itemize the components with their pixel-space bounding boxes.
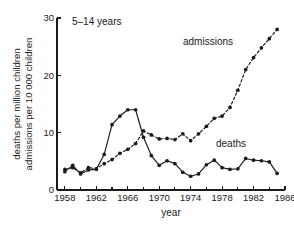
x-tick-label: 1978 — [212, 192, 233, 203]
chart-canvas: 0102030195819621966197019741978198219865… — [0, 0, 294, 227]
data-point-admissions — [220, 114, 224, 118]
y-tick-label: 10 — [43, 127, 54, 138]
y-tick-label: 0 — [49, 184, 54, 195]
data-point-deaths — [228, 168, 232, 172]
series-line-admissions — [65, 29, 277, 172]
x-tick-label: 1966 — [117, 192, 138, 203]
data-point-deaths — [212, 158, 216, 162]
data-point-admissions — [79, 171, 83, 175]
data-point-deaths — [157, 164, 161, 168]
admissions-series-label: admissions — [183, 36, 233, 47]
data-point-deaths — [220, 166, 224, 170]
data-point-admissions — [244, 68, 248, 72]
data-point-admissions — [102, 162, 106, 166]
data-point-deaths — [275, 172, 279, 176]
data-point-admissions — [267, 37, 271, 41]
data-point-admissions — [134, 142, 138, 146]
data-point-admissions — [126, 147, 130, 151]
axes-group — [57, 18, 285, 190]
series-group — [63, 28, 279, 178]
x-tick-label: 1962 — [86, 192, 107, 203]
y-tick-label: 20 — [43, 70, 54, 81]
data-point-admissions — [252, 56, 256, 60]
data-point-admissions — [94, 167, 98, 171]
data-point-deaths — [142, 135, 146, 139]
data-point-admissions — [236, 88, 240, 92]
data-point-admissions — [71, 166, 75, 170]
data-point-admissions — [118, 151, 122, 155]
x-tick-label: 1958 — [54, 192, 75, 203]
data-point-admissions — [189, 139, 193, 143]
data-point-deaths — [110, 123, 114, 127]
data-point-deaths — [197, 172, 201, 176]
data-point-deaths — [118, 114, 122, 118]
x-axis-title: year — [161, 207, 181, 218]
data-point-admissions — [181, 132, 185, 136]
data-point-admissions — [205, 125, 209, 129]
x-tick-label: 1986 — [274, 192, 294, 203]
data-point-deaths — [181, 170, 185, 174]
data-point-deaths — [102, 153, 106, 157]
y-axis-title-line1: deaths per million children — [11, 48, 22, 159]
data-point-admissions — [149, 133, 153, 137]
data-point-admissions — [228, 106, 232, 110]
data-point-admissions — [157, 137, 161, 141]
data-point-admissions — [142, 129, 146, 133]
data-point-deaths — [126, 108, 130, 112]
y-tick-label: 30 — [43, 12, 54, 23]
y-axis-title-line2: admissions per 10 000 children — [23, 38, 34, 171]
data-point-deaths — [260, 159, 264, 163]
data-point-admissions — [260, 46, 264, 50]
data-point-admissions — [87, 166, 91, 170]
data-point-admissions — [165, 137, 169, 141]
data-point-admissions — [173, 138, 177, 142]
x-tick-label: 1982 — [243, 192, 264, 203]
data-point-deaths — [189, 174, 193, 178]
data-point-deaths — [244, 157, 248, 161]
data-point-admissions — [212, 116, 216, 120]
data-point-admissions — [197, 132, 201, 136]
x-tick-label: 1970 — [149, 192, 170, 203]
text-group: 0102030195819621966197019741978198219865… — [11, 12, 294, 218]
data-point-deaths — [134, 108, 138, 112]
deaths-series-label: deaths — [216, 138, 246, 149]
data-point-deaths — [267, 160, 271, 164]
data-point-deaths — [149, 154, 153, 158]
data-point-deaths — [252, 158, 256, 162]
data-point-deaths — [236, 167, 240, 171]
x-tick-label: 1974 — [180, 192, 201, 203]
data-point-admissions — [275, 28, 279, 32]
data-point-deaths — [205, 163, 209, 167]
panel-title: 5–14 years — [72, 16, 121, 27]
data-point-admissions — [110, 158, 114, 162]
data-point-deaths — [165, 159, 169, 163]
data-point-deaths — [173, 162, 177, 166]
chart-figure: 0102030195819621966197019741978198219865… — [0, 0, 294, 227]
data-point-admissions — [63, 168, 67, 172]
